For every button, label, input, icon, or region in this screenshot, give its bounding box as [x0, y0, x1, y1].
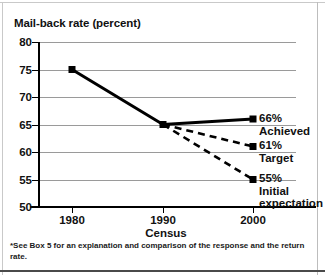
figure-container: Mail-back rate (percent) 80 75 70 65 60 …: [0, 0, 325, 277]
x-tick-label-2000: 2000: [240, 214, 266, 226]
y-tick-label-50: 50: [6, 201, 32, 213]
annotation-initial-value: 55%: [259, 172, 323, 185]
gridline-60: [38, 152, 296, 153]
y-tick-mark-65: [32, 125, 38, 126]
annotation-initial-desc-line1: Initial: [259, 185, 323, 198]
chart-title: Mail-back rate (percent): [14, 17, 141, 29]
x-tick-label-1990: 1990: [150, 214, 176, 226]
gridline-65: [38, 125, 296, 126]
y-tick-label-70: 70: [6, 91, 32, 103]
footnote: *See Box 5 for an explanation and compar…: [10, 241, 310, 262]
y-tick-label-65: 65: [6, 119, 32, 131]
x-tick-label-1980: 1980: [59, 214, 85, 226]
figure-border-right: [317, 2, 318, 275]
y-tick-mark-80: [32, 42, 38, 43]
figure-border-left: [2, 2, 3, 275]
y-tick-label-55: 55: [6, 174, 32, 186]
y-tick-mark-70: [32, 97, 38, 98]
y-tick-mark-60: [32, 152, 38, 153]
gridline-70: [38, 97, 296, 98]
plot-area: [38, 42, 296, 207]
x-axis-title: Census: [145, 227, 187, 239]
annotation-target: 61% Target: [259, 139, 293, 164]
y-tick-label-80: 80: [6, 36, 32, 48]
annotation-target-desc: Target: [259, 152, 293, 165]
gridline-80: [38, 42, 296, 43]
x-tick-mark-1990: [163, 208, 164, 213]
annotation-target-value: 61%: [259, 139, 293, 152]
gridline-55: [38, 180, 296, 181]
y-tick-mark-75: [32, 70, 38, 71]
gridline-75: [38, 70, 296, 71]
y-tick-label-60: 60: [6, 146, 32, 158]
annotation-initial-expectation: 55% Initial expectation: [259, 172, 323, 210]
y-tick-mark-55: [32, 180, 38, 181]
annotation-achieved-desc: Achieved: [259, 125, 310, 138]
annotation-achieved: 66% Achieved: [259, 112, 310, 137]
y-tick-mark-50: [32, 207, 38, 208]
figure-border-bottom: [0, 270, 325, 272]
y-tick-label-75: 75: [6, 64, 32, 76]
x-tick-mark-1980: [72, 208, 73, 213]
figure-border-top: [0, 2, 325, 3]
annotation-achieved-value: 66%: [259, 112, 310, 125]
x-tick-mark-2000: [253, 208, 254, 213]
annotation-initial-desc-line2: expectation: [259, 197, 323, 210]
y-axis-line: [38, 42, 40, 208]
